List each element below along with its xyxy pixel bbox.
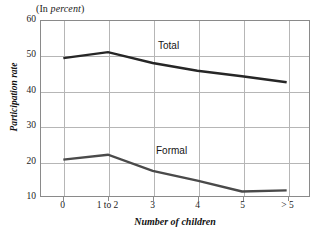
x-tick-label: 5: [240, 200, 245, 210]
chart-units-note: (In percent): [36, 3, 84, 14]
series-line-total: [63, 52, 286, 82]
x-tick-mark: [198, 197, 199, 201]
series-label-total: Total: [157, 40, 180, 51]
units-note-suffix: ): [81, 3, 84, 14]
x-tick-mark: [153, 197, 154, 201]
x-tick-mark: [288, 197, 289, 201]
series-line-formal: [63, 155, 286, 192]
x-tick-label: 3: [150, 200, 155, 210]
chart-figure: (In percent) 102030405060 01 to 2345> 5 …: [0, 0, 325, 237]
x-tick-mark: [243, 197, 244, 201]
units-note-italic: percent: [51, 3, 81, 14]
x-tick-label: 1 to 2: [97, 200, 119, 210]
y-axis-title: Participation rate: [9, 35, 19, 159]
x-tick-label: 4: [195, 200, 200, 210]
x-tick-label: 0: [60, 200, 65, 210]
y-tick-label: 60: [8, 14, 36, 24]
x-tick-label: > 5: [281, 200, 293, 210]
units-note-prefix: (In: [36, 3, 51, 14]
y-tick-label: 10: [8, 191, 36, 201]
series-label-formal: Formal: [155, 145, 188, 156]
x-tick-mark: [63, 197, 64, 201]
x-tick-mark: [108, 197, 109, 201]
x-axis-title: Number of children: [40, 216, 310, 227]
